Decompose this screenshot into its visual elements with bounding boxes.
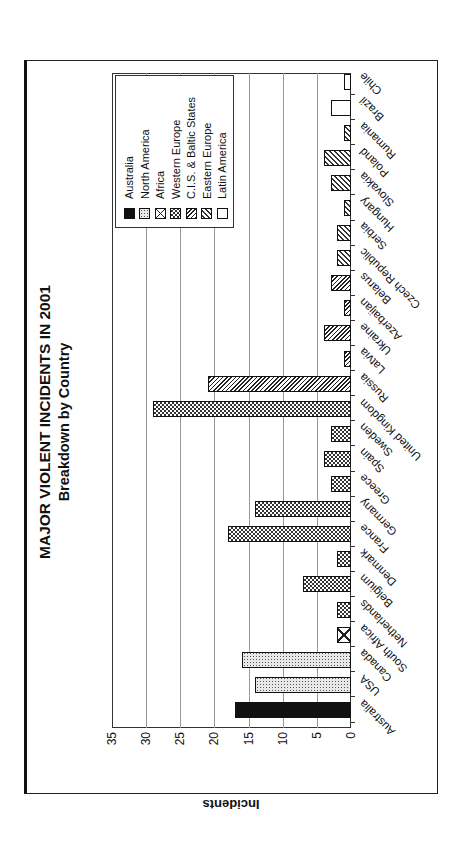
x-tick xyxy=(351,395,355,396)
bar-canada xyxy=(242,652,351,668)
legend-label: Western Europe xyxy=(170,120,182,199)
x-tick xyxy=(351,546,355,547)
bar-denmark xyxy=(337,551,351,567)
bar-slovakia xyxy=(331,175,351,191)
legend-item: C.I.S. & Baltic States xyxy=(184,97,198,219)
x-tick xyxy=(351,94,355,95)
x-tick xyxy=(351,571,355,572)
bar-poland xyxy=(324,150,351,166)
y-axis-label: Incidents xyxy=(202,797,259,812)
bar-latvia xyxy=(344,351,351,367)
x-tick xyxy=(351,295,355,296)
x-tick xyxy=(351,496,355,497)
bar-germany xyxy=(255,501,351,517)
bar-usa xyxy=(255,677,351,693)
x-tick xyxy=(351,345,355,346)
bar-netherlands xyxy=(337,602,351,618)
bar-australia xyxy=(235,702,351,718)
legend-swatch-icon xyxy=(155,208,166,219)
bar-brazil xyxy=(331,100,351,116)
legend-label: Eastern Europe xyxy=(201,123,213,199)
x-tick xyxy=(351,144,355,145)
bar-united-kingdom xyxy=(153,401,351,417)
legend-item: North America xyxy=(138,129,152,219)
chart-title: MAJOR VIOLENT INCIDENTS IN 2001 xyxy=(36,0,54,844)
legend-swatch-icon xyxy=(139,208,150,219)
bar-france xyxy=(228,526,351,542)
bar-czech-republic xyxy=(337,250,351,266)
bar-rumania xyxy=(344,125,351,141)
bar-ukraine xyxy=(324,326,351,342)
x-tick xyxy=(351,722,355,723)
legend-item: Eastern Europe xyxy=(200,123,214,219)
legend-label: Africa xyxy=(154,171,166,199)
legend-swatch-icon xyxy=(217,208,228,219)
bar-serbia xyxy=(337,225,351,241)
x-tick xyxy=(351,471,355,472)
chart-subtitle: Breakdown by Country xyxy=(56,0,72,844)
x-tick xyxy=(351,445,355,446)
legend-label: North America xyxy=(139,129,151,199)
x-tick xyxy=(351,370,355,371)
legend-item: Africa xyxy=(153,171,167,219)
legend-swatch-icon xyxy=(124,208,135,219)
x-tick xyxy=(351,169,355,170)
legend-item: Latin America xyxy=(215,132,229,219)
bar-greece xyxy=(331,476,351,492)
bar-sweden xyxy=(331,426,351,442)
legend-swatch-icon xyxy=(170,208,181,219)
legend-label: C.I.S. & Baltic States xyxy=(185,97,197,199)
x-tick xyxy=(351,621,355,622)
legend-item: Western Europe xyxy=(169,120,183,219)
x-tick xyxy=(351,245,355,246)
y-tick-label: 5 xyxy=(310,732,324,762)
bar-belarus xyxy=(331,275,351,291)
bar-hungary xyxy=(344,200,351,216)
y-tick-label: 30 xyxy=(139,732,153,762)
x-tick xyxy=(351,270,355,271)
y-tick-label: 0 xyxy=(344,732,358,762)
bar-belgium xyxy=(303,577,351,593)
legend-label: Australia xyxy=(123,156,135,199)
x-tick xyxy=(351,119,355,120)
y-tick-label: 35 xyxy=(105,732,119,762)
legend-swatch-icon xyxy=(201,208,212,219)
x-tick xyxy=(351,420,355,421)
x-tick xyxy=(351,220,355,221)
bar-russia xyxy=(208,376,351,392)
bar-chile xyxy=(344,75,351,91)
y-tick-label: 10 xyxy=(276,732,290,762)
x-tick xyxy=(351,596,355,597)
bar-azerbaijan xyxy=(344,300,351,316)
legend: AustraliaNorth AmericaAfricaWestern Euro… xyxy=(115,75,234,228)
x-tick xyxy=(351,671,355,672)
x-tick xyxy=(351,696,355,697)
bar-spain xyxy=(324,451,351,467)
rotated-chart-page: MAJOR VIOLENT INCIDENTS IN 2001 Breakdow… xyxy=(0,0,465,844)
x-tick xyxy=(351,646,355,647)
x-tick xyxy=(351,320,355,321)
legend-swatch-icon xyxy=(186,208,197,219)
y-tick-label: 15 xyxy=(242,732,256,762)
legend-label: Latin America xyxy=(216,132,228,199)
bar-south-africa xyxy=(337,627,351,643)
legend-item: Australia xyxy=(122,156,136,219)
x-tick xyxy=(351,194,355,195)
x-tick xyxy=(351,521,355,522)
y-tick-label: 20 xyxy=(207,732,221,762)
y-tick-label: 25 xyxy=(173,732,187,762)
